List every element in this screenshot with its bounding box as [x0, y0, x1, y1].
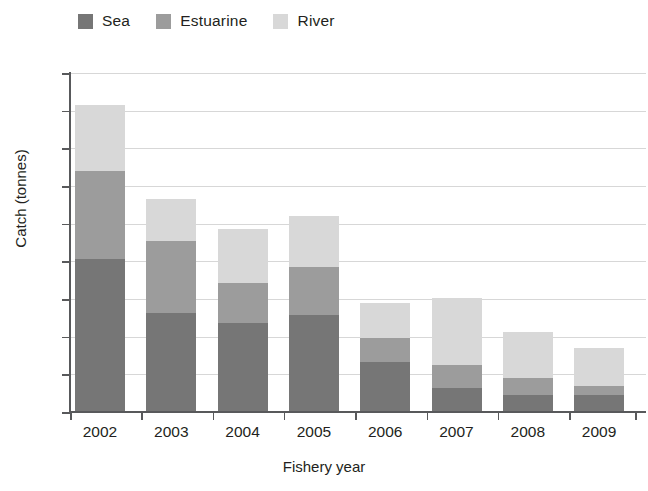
- legend-swatch-river: [273, 14, 288, 29]
- y-axis-tick: [62, 224, 70, 226]
- bar-segment-sea-2008: [503, 395, 553, 412]
- bar-segment-sea-2002: [75, 259, 125, 412]
- x-axis-tick: [427, 412, 429, 420]
- plot-area: [70, 73, 646, 412]
- y-axis-tick: [62, 412, 70, 414]
- x-axis-tick: [70, 412, 72, 420]
- x-axis-tick: [284, 412, 286, 420]
- bar-2004: [218, 73, 268, 412]
- x-axis-tick-label: 2005: [279, 423, 349, 441]
- bar-segment-sea-2003: [146, 313, 196, 412]
- y-axis-tick: [62, 186, 70, 188]
- bar-segment-river-2009: [574, 348, 624, 386]
- y-axis-tick: [62, 148, 70, 150]
- bar-segment-river-2007: [432, 298, 482, 365]
- legend-item-river: River: [273, 13, 334, 29]
- y-axis-tick: [62, 337, 70, 339]
- x-axis-tick-label: 2002: [65, 423, 135, 441]
- y-axis-tick: [62, 111, 70, 113]
- bar-2009: [574, 73, 624, 412]
- bar-segment-sea-2009: [574, 395, 624, 412]
- x-axis-line: [69, 411, 646, 413]
- bar-2006: [360, 73, 410, 412]
- stacked-bar-chart: Sea Estuarine River 01020304050607080902…: [0, 0, 648, 491]
- x-axis-tick-label: 2004: [208, 423, 278, 441]
- bar-2007: [432, 73, 482, 412]
- bar-segment-river-2003: [146, 199, 196, 240]
- bar-segment-estuarine-2002: [75, 171, 125, 260]
- bar-segment-estuarine-2009: [574, 386, 624, 395]
- legend-item-sea: Sea: [78, 13, 130, 29]
- bar-2002: [75, 73, 125, 412]
- x-axis-title: Fishery year: [0, 458, 648, 475]
- bar-segment-river-2006: [360, 303, 410, 338]
- y-axis-line: [69, 72, 71, 413]
- x-axis-tick: [569, 412, 571, 420]
- legend-label-sea: Sea: [102, 13, 130, 29]
- bar-segment-estuarine-2003: [146, 241, 196, 313]
- legend-item-estuarine: Estuarine: [156, 13, 247, 29]
- y-axis-tick: [62, 374, 70, 376]
- x-axis-tick: [141, 412, 143, 420]
- legend-swatch-estuarine: [156, 14, 171, 29]
- legend-label-estuarine: Estuarine: [180, 13, 247, 29]
- bar-segment-estuarine-2005: [289, 267, 339, 315]
- x-axis-tick: [498, 412, 500, 420]
- y-axis-tick: [62, 261, 70, 263]
- bar-segment-estuarine-2006: [360, 338, 410, 362]
- bar-segment-sea-2006: [360, 362, 410, 412]
- x-axis-tick-label: 2008: [493, 423, 563, 441]
- bar-segment-estuarine-2008: [503, 378, 553, 395]
- bar-segment-sea-2007: [432, 388, 482, 412]
- legend-label-river: River: [297, 13, 334, 29]
- bar-segment-river-2008: [503, 332, 553, 378]
- x-axis-tick-label: 2006: [350, 423, 420, 441]
- y-axis-tick: [62, 299, 70, 301]
- bar-segment-sea-2005: [289, 315, 339, 412]
- y-axis-tick: [62, 73, 70, 75]
- x-axis-tick: [355, 412, 357, 420]
- x-axis-tick-label: 2009: [564, 423, 634, 441]
- x-axis-tick: [213, 412, 215, 420]
- x-axis-tick-label: 2003: [136, 423, 206, 441]
- bar-segment-estuarine-2004: [218, 283, 268, 323]
- x-axis-tick: [635, 412, 637, 420]
- y-axis-title: Catch (tonnes): [12, 89, 29, 309]
- bar-2008: [503, 73, 553, 412]
- bar-segment-river-2005: [289, 216, 339, 267]
- bar-segment-estuarine-2007: [432, 365, 482, 388]
- bar-2005: [289, 73, 339, 412]
- x-axis-tick-label: 2007: [422, 423, 492, 441]
- chart-legend: Sea Estuarine River: [78, 10, 361, 32]
- bar-segment-sea-2004: [218, 323, 268, 412]
- bar-2003: [146, 73, 196, 412]
- bar-segment-river-2002: [75, 105, 125, 171]
- bar-segment-river-2004: [218, 229, 268, 282]
- legend-swatch-sea: [78, 14, 93, 29]
